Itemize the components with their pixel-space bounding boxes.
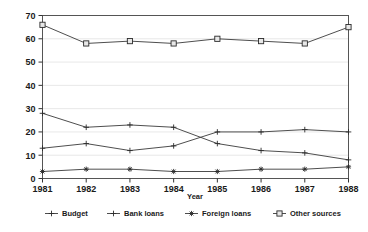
- square-marker-icon: [40, 22, 45, 27]
- y-axis-tick-labels: 010203040506070: [25, 11, 35, 184]
- y-tick-label-60: 60: [25, 34, 35, 44]
- data-point-1984: [171, 124, 177, 130]
- data-point-1982: [84, 167, 89, 172]
- data-point-1984: [171, 169, 176, 174]
- data-point-1984: [171, 143, 177, 149]
- data-point-1983: [127, 148, 133, 154]
- data-point-1986: [258, 39, 263, 44]
- legend-item-other-sources: Other sources: [273, 209, 341, 218]
- data-point-1981: [40, 145, 46, 151]
- data-point-1986: [258, 129, 264, 135]
- x-tick-label-1988: 1988: [338, 184, 358, 194]
- gridlines: [43, 39, 349, 155]
- square-marker-icon: [277, 211, 282, 216]
- square-marker-icon: [171, 41, 176, 46]
- data-point-1987: [302, 167, 307, 172]
- legend-label: Other sources: [290, 209, 341, 218]
- square-marker-icon: [127, 39, 132, 44]
- square-marker-icon: [84, 41, 89, 46]
- y-tick-label-50: 50: [25, 57, 35, 67]
- data-point-1983: [127, 167, 132, 172]
- series-line: [43, 130, 349, 151]
- x-tick-label-1981: 1981: [32, 184, 52, 194]
- data-point-1985: [215, 36, 220, 41]
- legend: BudgetBank loansForeign loansOther sourc…: [45, 209, 341, 218]
- data-point-1985: [215, 141, 221, 147]
- legend-item-budget: Budget: [45, 209, 88, 218]
- data-point-1988: [346, 157, 352, 163]
- data-point-1987: [302, 150, 308, 156]
- data-point-1983: [127, 39, 132, 44]
- square-marker-icon: [346, 25, 351, 30]
- series-foreign-loans: [40, 164, 351, 174]
- series-budget: [40, 111, 352, 163]
- data-point-1982: [83, 141, 89, 147]
- x-tick-label-1982: 1982: [76, 184, 96, 194]
- x-tick-label-1984: 1984: [164, 184, 184, 194]
- data-point-1986: [258, 167, 263, 172]
- data-point-1988: [346, 25, 351, 30]
- legend-marker-icon: [189, 211, 194, 216]
- legend-marker-icon: [49, 211, 55, 217]
- data-point-1981: [40, 22, 45, 27]
- y-tick-label-10: 10: [25, 151, 35, 161]
- x-tick-label-1983: 1983: [120, 184, 140, 194]
- data-point-1985: [215, 169, 220, 174]
- legend-item-foreign-loans: Foreign loans: [185, 209, 251, 218]
- data-point-1984: [171, 41, 176, 46]
- legend-marker-icon: [111, 211, 117, 217]
- data-point-1982: [83, 124, 89, 130]
- data-point-1981: [40, 169, 45, 174]
- y-tick-label-20: 20: [25, 127, 35, 137]
- data-point-1987: [302, 41, 307, 46]
- line-chart: 010203040506070 198119821983198419851986…: [0, 0, 368, 232]
- square-marker-icon: [258, 39, 263, 44]
- data-point-1988: [346, 164, 351, 169]
- data-point-1982: [84, 41, 89, 46]
- legend-label: Budget: [62, 209, 88, 218]
- x-axis-title: Year: [187, 192, 203, 201]
- data-point-1986: [258, 148, 264, 154]
- x-axis-ticks: [43, 179, 349, 183]
- series-lines: [40, 22, 352, 174]
- chart-canvas: 010203040506070 198119821983198419851986…: [0, 0, 368, 232]
- data-point-1988: [346, 129, 352, 135]
- data-point-1981: [40, 111, 46, 117]
- series-other-sources: [40, 22, 351, 46]
- legend-label: Bank loans: [124, 209, 164, 218]
- data-point-1987: [302, 127, 308, 133]
- y-tick-label-0: 0: [30, 174, 35, 184]
- series-bank-loans: [40, 127, 352, 154]
- x-tick-label-1987: 1987: [295, 184, 315, 194]
- y-tick-label-30: 30: [25, 104, 35, 114]
- square-marker-icon: [215, 36, 220, 41]
- legend-marker-icon: [277, 211, 282, 216]
- x-tick-label-1986: 1986: [251, 184, 271, 194]
- data-point-1983: [127, 122, 133, 128]
- y-tick-label-40: 40: [25, 81, 35, 91]
- legend-item-bank-loans: Bank loans: [107, 209, 164, 218]
- legend-label: Foreign loans: [202, 209, 251, 218]
- data-point-1985: [215, 129, 221, 135]
- plot-frame: [43, 16, 349, 179]
- y-tick-label-70: 70: [25, 11, 35, 21]
- x-tick-label-1985: 1985: [207, 184, 227, 194]
- y-axis-ticks: [39, 16, 43, 179]
- square-marker-icon: [302, 41, 307, 46]
